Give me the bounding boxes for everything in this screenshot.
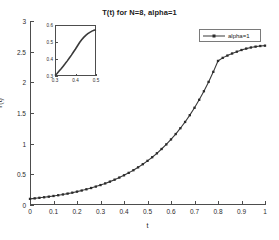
inset-x-tick-label: 0.3 bbox=[52, 78, 58, 83]
inset-y-tick-label: 0.6 bbox=[47, 23, 53, 28]
x-tick-label: 0.3 bbox=[96, 208, 105, 215]
y-tick-label: 2 bbox=[22, 79, 26, 86]
y-tick-label: 0.5 bbox=[17, 171, 26, 178]
inset-axes: 0.30.40.50.6 0.30.40.5 bbox=[55, 25, 96, 76]
legend-box: alpha=1 bbox=[199, 29, 261, 42]
x-axis-label: t bbox=[30, 222, 265, 229]
y-tick-label: 3 bbox=[22, 18, 26, 25]
legend-line-marker-icon bbox=[203, 32, 225, 39]
x-tick-label: 0.8 bbox=[213, 208, 222, 215]
inset-x-tick-label: 0.5 bbox=[93, 78, 99, 83]
x-tick-label: 0.4 bbox=[119, 208, 128, 215]
x-tick-label: 0.2 bbox=[72, 208, 81, 215]
x-tick-label: 0.6 bbox=[166, 208, 175, 215]
y-tick-label: 1 bbox=[22, 140, 26, 147]
y-axis-label: T(t) bbox=[0, 98, 3, 109]
inset-series-curve bbox=[55, 25, 96, 76]
x-tick-label: 0 bbox=[28, 208, 32, 215]
y-tick-label: 0 bbox=[22, 202, 26, 209]
y-tick-mark bbox=[30, 205, 34, 206]
legend-marker bbox=[213, 34, 216, 37]
figure-canvas: T(t) for N=8, alpha=1 T(t) t 00.511.522.… bbox=[0, 0, 279, 240]
y-tick-label: 2.5 bbox=[17, 48, 26, 55]
x-tick-label: 0.1 bbox=[49, 208, 58, 215]
inset-y-tick-label: 0.4 bbox=[47, 57, 53, 62]
x-tick-label: 0.9 bbox=[237, 208, 246, 215]
inset-x-tick-mark bbox=[96, 74, 97, 77]
x-tick-label: 0.5 bbox=[143, 208, 152, 215]
y-tick-label: 1.5 bbox=[17, 110, 26, 117]
x-tick-label: 0.7 bbox=[190, 208, 199, 215]
inset-x-tick-label: 0.4 bbox=[72, 78, 78, 83]
inset-y-tick-label: 0.5 bbox=[47, 40, 53, 45]
x-tick-label: 1 bbox=[263, 208, 267, 215]
x-tick-mark bbox=[265, 201, 266, 205]
legend-entry-label: alpha=1 bbox=[228, 33, 250, 39]
chart-title: T(t) for N=8, alpha=1 bbox=[0, 8, 279, 17]
